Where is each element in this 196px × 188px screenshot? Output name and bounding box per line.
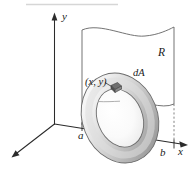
y-axis [52,13,58,125]
solid-of-revolution-diagram: y x R dA (x, y) a b [0,0,196,188]
point-xy-label: (x, y) [85,76,107,88]
y-axis-arrowhead [52,13,58,21]
dA-label: dA [133,67,145,78]
upper-bound-b-label: b [160,146,166,158]
z-axis [12,124,55,158]
plate-edge-behind-ring-upper [98,101,120,102]
x-axis-label: x [177,145,183,157]
y-axis-label: y [61,10,67,22]
lower-bound-a-label: a [78,129,84,141]
region-R-label: R [157,46,165,58]
figure-container: y x R dA (x, y) a b [0,0,196,188]
z-axis-arrowhead [12,150,20,157]
z-axis-line [17,124,55,153]
